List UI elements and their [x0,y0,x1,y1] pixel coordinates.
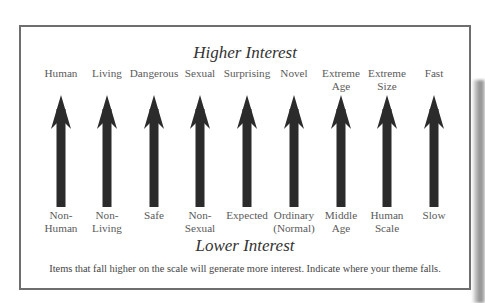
up-arrow-icon [189,95,211,207]
lower-interest-title: Lower Interest [21,236,469,256]
up-arrow-icon [376,95,398,207]
up-arrow-icon [283,95,305,207]
high-label: Fast [404,67,464,80]
higher-interest-title: Higher Interest [21,43,469,63]
diagram-caption: Items that fall higher on the scale will… [21,263,469,274]
up-arrow-icon [96,95,118,207]
page-edge-shadow [473,80,485,303]
up-arrow-icon [236,95,258,207]
interest-scale-diagram: Higher Interest HumanNon-HumanLivingNon-… [19,25,471,290]
low-label: Slow [404,209,464,222]
up-arrow-icon [50,95,72,207]
up-arrow-icon [423,95,445,207]
up-arrow-icon [143,95,165,207]
up-arrow-icon [330,95,352,207]
